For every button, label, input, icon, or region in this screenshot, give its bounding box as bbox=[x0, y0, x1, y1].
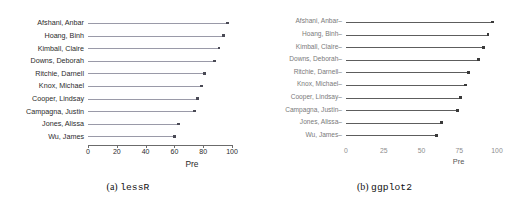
lollipop-row bbox=[346, 135, 497, 136]
lollipop-stem bbox=[88, 111, 195, 112]
lollipop-point bbox=[467, 71, 470, 74]
category-label: Knox, Michael– bbox=[297, 81, 342, 88]
lollipop-row bbox=[346, 98, 497, 99]
lollipop-point bbox=[196, 97, 199, 100]
lollipop-row bbox=[346, 110, 497, 111]
x-axis-tick-label: 80 bbox=[188, 148, 218, 155]
category-label: Wu, James– bbox=[305, 132, 342, 139]
lollipop-row bbox=[88, 136, 232, 137]
category-label: Campagna, Justin bbox=[26, 108, 84, 115]
category-label: Campagna, Justin– bbox=[285, 107, 342, 114]
lollipop-point bbox=[173, 135, 176, 138]
lollipop-row bbox=[88, 99, 232, 100]
caption-name-ggplot2: ggplot2 bbox=[371, 182, 412, 193]
lollipop-row bbox=[88, 48, 232, 49]
lollipop-row bbox=[88, 86, 232, 87]
caption-number-ggplot2: (b) bbox=[357, 181, 369, 192]
lollipop-stem bbox=[88, 73, 205, 74]
lollipop-stem bbox=[346, 110, 458, 111]
lollipop-row bbox=[88, 23, 232, 24]
category-label: Afshani, Anbar bbox=[37, 19, 84, 26]
lollipop-row bbox=[88, 73, 232, 74]
lollipop-point bbox=[435, 134, 438, 137]
lollipop-row bbox=[346, 85, 497, 86]
x-axis-tick-label: 20 bbox=[102, 148, 132, 155]
lollipop-stem bbox=[88, 23, 228, 24]
lollipop-stem bbox=[88, 86, 202, 87]
lollipop-stem bbox=[88, 136, 174, 137]
x-axis-title-ggplot2: Pre bbox=[256, 158, 513, 165]
panel-lessr: Afshani, AnbarHoang, BinhKimball, Claire… bbox=[0, 0, 256, 203]
lollipop-row bbox=[346, 60, 497, 61]
lollipop-stem bbox=[88, 99, 197, 100]
category-label: Hoang, Binh bbox=[44, 32, 84, 39]
plot-area-ggplot2: Afshani, Anbar–Hoang, Binh–Kimball, Clai… bbox=[256, 0, 513, 168]
category-label: Kimball, Claire– bbox=[296, 44, 342, 51]
lollipop-row bbox=[346, 35, 497, 36]
category-label: Downs, Deborah– bbox=[289, 56, 342, 63]
lollipop-point bbox=[491, 21, 494, 24]
x-axis-tick-label: 0 bbox=[73, 148, 103, 155]
lollipop-stem bbox=[346, 98, 461, 99]
x-axis-tick-label: 60 bbox=[159, 148, 189, 155]
lollipop-stem bbox=[346, 135, 437, 136]
caption-name-lessr: lessR bbox=[120, 182, 149, 193]
category-label: Downs, Deborah bbox=[30, 57, 84, 64]
category-label: Knox, Michael bbox=[39, 82, 84, 89]
category-label: Hoang, Binh– bbox=[302, 31, 342, 38]
lollipop-point bbox=[464, 84, 467, 87]
x-axis-tick-label: 25 bbox=[369, 148, 399, 155]
caption-lessr: (a) lessR bbox=[0, 182, 256, 193]
lollipop-row bbox=[346, 22, 497, 23]
lollipop-stem bbox=[346, 47, 483, 48]
category-label: Afshani, Anbar– bbox=[295, 18, 342, 25]
lollipop-row bbox=[346, 47, 497, 48]
lollipop-stem bbox=[346, 35, 488, 36]
lollipop-stem bbox=[346, 22, 492, 23]
x-axis-tick-label: 0 bbox=[331, 148, 361, 155]
lollipop-point bbox=[177, 123, 180, 126]
lollipop-point bbox=[200, 85, 203, 88]
lollipop-point bbox=[193, 110, 196, 113]
lollipop-stem bbox=[88, 48, 219, 49]
category-label: Cooper, Lindsay– bbox=[291, 94, 342, 101]
caption-number-lessr: (a) bbox=[107, 181, 118, 192]
x-axis-tick-label: 75 bbox=[444, 148, 474, 155]
lollipop-stem bbox=[88, 124, 179, 125]
lollipop-row bbox=[88, 36, 232, 37]
lollipop-point bbox=[203, 72, 206, 75]
lollipop-row bbox=[88, 111, 232, 112]
lollipop-stem bbox=[88, 61, 215, 62]
plot-area-lessr: Afshani, AnbarHoang, BinhKimball, Claire… bbox=[0, 0, 256, 168]
category-label: Kimball, Claire bbox=[38, 45, 84, 52]
category-label: Ritchie, Darnell bbox=[35, 70, 84, 77]
x-axis-line bbox=[88, 145, 232, 146]
figure-container: Afshani, AnbarHoang, BinhKimball, Claire… bbox=[0, 0, 513, 203]
lollipop-point bbox=[456, 109, 459, 112]
lollipop-point bbox=[222, 34, 225, 37]
category-label: Cooper, Lindsay bbox=[32, 95, 84, 102]
lollipop-point bbox=[218, 47, 221, 50]
category-label: Wu, James bbox=[48, 133, 84, 140]
lollipop-row bbox=[88, 124, 232, 125]
x-axis-tick-label: 40 bbox=[131, 148, 161, 155]
lollipop-stem bbox=[346, 85, 465, 86]
lollipop-point bbox=[459, 96, 462, 99]
lollipop-point bbox=[482, 46, 485, 49]
lollipop-point bbox=[213, 60, 216, 63]
panel-ggplot2: Afshani, Anbar–Hoang, Binh–Kimball, Clai… bbox=[256, 0, 513, 203]
lollipop-row bbox=[346, 72, 497, 73]
lollipop-point bbox=[440, 121, 443, 124]
lollipop-point bbox=[487, 33, 490, 36]
x-axis-tick-label: 50 bbox=[407, 148, 437, 155]
category-label: Ritchie, Darnell– bbox=[294, 69, 342, 76]
lollipop-stem bbox=[346, 60, 479, 61]
x-axis-tick-label: 100 bbox=[482, 148, 512, 155]
lollipop-stem bbox=[346, 72, 468, 73]
category-label: Jones, Alissa bbox=[42, 120, 84, 127]
lollipop-point bbox=[226, 22, 229, 25]
x-axis-tick-label: 100 bbox=[217, 148, 247, 155]
lollipop-stem bbox=[88, 36, 223, 37]
category-label: Jones, Alissa– bbox=[300, 119, 342, 126]
lollipop-row bbox=[88, 61, 232, 62]
